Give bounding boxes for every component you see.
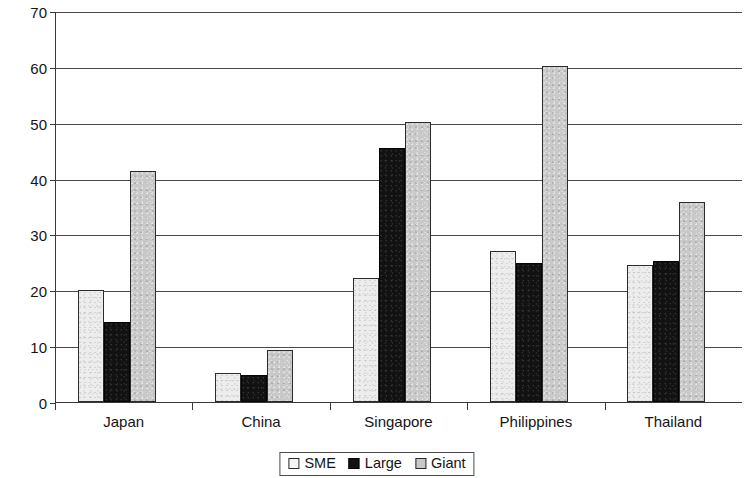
x-axis-tick bbox=[55, 403, 56, 410]
y-axis-tick bbox=[50, 291, 56, 292]
legend-item-giant: Giant bbox=[415, 456, 466, 471]
bar-group bbox=[627, 12, 705, 402]
y-axis-tick bbox=[50, 124, 56, 125]
y-axis-tick bbox=[50, 347, 56, 348]
legend-item-sme: SME bbox=[288, 456, 335, 471]
x-axis-tick bbox=[467, 403, 468, 410]
x-axis-label-singapore: Singapore bbox=[364, 414, 432, 429]
bar-thailand-giant bbox=[679, 202, 705, 402]
plot-area bbox=[55, 12, 742, 403]
x-axis-label-japan: Japan bbox=[103, 414, 144, 429]
x-axis-tick bbox=[330, 403, 331, 410]
y-axis-tick-label: 60 bbox=[3, 60, 47, 75]
bar-japan-large bbox=[104, 322, 130, 402]
bar-singapore-giant bbox=[405, 122, 431, 402]
y-axis-tick-label: 50 bbox=[3, 116, 47, 131]
bar-group bbox=[353, 12, 431, 402]
y-axis-tick-label: 70 bbox=[3, 5, 47, 20]
legend-item-large: Large bbox=[349, 456, 402, 471]
y-axis-tick bbox=[50, 12, 56, 13]
bar-philippines-sme bbox=[490, 251, 516, 402]
y-axis-tick bbox=[50, 68, 56, 69]
y-axis-tick-label: 40 bbox=[3, 172, 47, 187]
bar-group bbox=[490, 12, 568, 402]
x-axis-label-thailand: Thailand bbox=[645, 414, 703, 429]
bar-group bbox=[78, 12, 156, 402]
legend-swatch-giant bbox=[415, 458, 426, 469]
y-axis-tick bbox=[50, 180, 56, 181]
bar-japan-giant bbox=[130, 171, 156, 402]
bar-chart: 010203040506070 JapanChinaSingaporePhili… bbox=[0, 0, 754, 478]
legend-label-giant: Giant bbox=[431, 456, 466, 471]
bar-thailand-sme bbox=[627, 265, 653, 402]
bar-philippines-giant bbox=[542, 66, 568, 402]
bar-japan-sme bbox=[78, 290, 104, 402]
bar-singapore-large bbox=[379, 148, 405, 402]
legend-swatch-sme bbox=[288, 458, 299, 469]
bar-philippines-large bbox=[516, 263, 542, 402]
y-axis-tick-label: 0 bbox=[3, 396, 47, 411]
bar-china-sme bbox=[215, 373, 241, 402]
bar-china-giant bbox=[267, 350, 293, 403]
legend-swatch-large bbox=[349, 458, 360, 469]
bar-group bbox=[215, 12, 293, 402]
legend-label-large: Large bbox=[365, 456, 402, 471]
x-axis-label-philippines: Philippines bbox=[500, 414, 573, 429]
legend-label-sme: SME bbox=[304, 456, 335, 471]
x-axis-label-china: China bbox=[241, 414, 280, 429]
x-axis-tick bbox=[605, 403, 606, 410]
bar-thailand-large bbox=[653, 261, 679, 402]
y-axis-tick-label: 20 bbox=[3, 284, 47, 299]
y-axis-tick-label: 10 bbox=[3, 340, 47, 355]
bar-singapore-sme bbox=[353, 278, 379, 402]
y-axis-tick-label: 30 bbox=[3, 228, 47, 243]
chart-legend: SME Large Giant bbox=[279, 452, 474, 476]
x-axis-tick bbox=[192, 403, 193, 410]
y-axis-tick bbox=[50, 235, 56, 236]
bar-china-large bbox=[241, 375, 267, 402]
